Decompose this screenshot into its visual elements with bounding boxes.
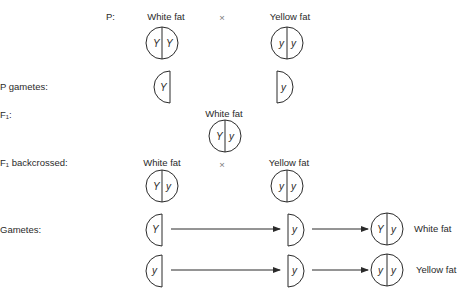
row2-offspring-allele-1: y bbox=[377, 265, 384, 276]
f1-allele-1: Y bbox=[216, 131, 224, 142]
p-left-allele-2: Y bbox=[166, 38, 174, 49]
p-left-allele-1: Y bbox=[153, 38, 161, 49]
row1-offspring-allele-2: y bbox=[390, 224, 397, 235]
diagram-graphics: Y Y y y Y y Y y Y y y y Y y Y y y y y y bbox=[0, 0, 470, 296]
backcross-right-allele-2: y bbox=[290, 181, 297, 192]
f1-genotype-circle bbox=[209, 120, 241, 152]
backcross-left-genotype-circle bbox=[146, 170, 178, 202]
p-left-genotype-circle bbox=[146, 27, 178, 59]
backcross-right-allele-1: y bbox=[278, 181, 285, 192]
row1-offspring-allele-1: Y bbox=[377, 224, 385, 235]
backcross-left-allele-2: y bbox=[165, 181, 172, 192]
backcross-diagram: P: P gametes: F₁: F₁ backcrossed: Gamete… bbox=[0, 0, 470, 296]
p-right-allele-2: y bbox=[290, 38, 297, 49]
row2-f1-gamete-allele: y bbox=[151, 265, 158, 276]
row2-offspring-genotype-circle bbox=[371, 254, 403, 286]
f1-allele-2: y bbox=[228, 131, 235, 142]
row1-f1-gamete-allele: Y bbox=[152, 224, 160, 235]
p-left-gamete-allele: Y bbox=[160, 82, 168, 93]
p-right-gamete-allele: y bbox=[280, 82, 287, 93]
row1-yellow-gamete-allele: y bbox=[291, 224, 298, 235]
backcross-right-genotype-circle bbox=[271, 170, 303, 202]
p-right-allele-1: y bbox=[278, 38, 285, 49]
backcross-left-allele-1: Y bbox=[153, 181, 161, 192]
row2-offspring-allele-2: y bbox=[390, 265, 397, 276]
row1-offspring-genotype-circle bbox=[371, 213, 403, 245]
row2-yellow-gamete-allele: y bbox=[291, 265, 298, 276]
p-right-genotype-circle bbox=[271, 27, 303, 59]
